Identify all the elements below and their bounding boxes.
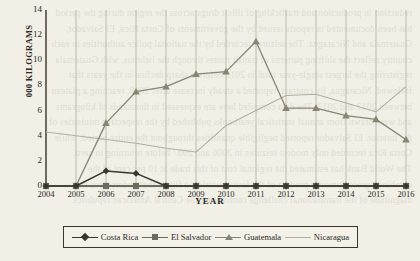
legend-item-el-salvador[interactable]: El Salvador bbox=[142, 232, 211, 242]
chart-legend: Costa RicaEl SalvadorGuatemalaNicaragua bbox=[63, 226, 358, 248]
data-point-marker bbox=[103, 183, 109, 189]
legend-label: Guatemala bbox=[244, 232, 281, 242]
plot-area-wrapper: 000 KILOGRAMS YEAR 02468101214 200420052… bbox=[0, 0, 420, 261]
legend-item-nicaragua[interactable]: Nicaragua bbox=[285, 232, 349, 242]
legend-item-guatemala[interactable]: Guatemala bbox=[215, 232, 281, 242]
chart-figure: 000 KILOGRAMS YEAR 02468101214 200420052… bbox=[0, 0, 420, 261]
legend-swatch-icon bbox=[285, 233, 311, 242]
data-point-marker bbox=[252, 38, 260, 45]
data-point-marker bbox=[103, 168, 110, 175]
legend-swatch-icon bbox=[215, 233, 241, 242]
chart-svg bbox=[0, 0, 420, 261]
legend-label: Nicaragua bbox=[314, 232, 349, 242]
series-guatemala bbox=[46, 38, 410, 186]
legend-item-costa-rica[interactable]: Costa Rica bbox=[72, 232, 138, 242]
legend-swatch-icon bbox=[142, 233, 168, 242]
data-point-marker bbox=[402, 136, 410, 143]
legend-label: El Salvador bbox=[171, 232, 211, 242]
legend-label: Costa Rica bbox=[101, 232, 138, 242]
legend-swatch-icon bbox=[72, 233, 98, 242]
data-point-marker bbox=[133, 170, 140, 177]
data-point-marker bbox=[133, 183, 139, 189]
